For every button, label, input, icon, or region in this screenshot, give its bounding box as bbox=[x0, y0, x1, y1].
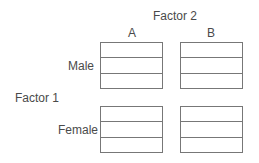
box-male-a bbox=[100, 42, 163, 89]
box-female-b bbox=[180, 106, 243, 153]
cell bbox=[101, 73, 162, 88]
cell bbox=[181, 73, 242, 88]
cell bbox=[181, 57, 242, 72]
column-label-a: A bbox=[128, 26, 136, 40]
cell bbox=[101, 57, 162, 72]
factor1-label: Factor 1 bbox=[15, 91, 59, 105]
cell bbox=[101, 121, 162, 136]
cell bbox=[181, 137, 242, 152]
box-male-b bbox=[180, 42, 243, 89]
cell bbox=[101, 43, 162, 57]
row-label-female: Female bbox=[58, 123, 98, 137]
box-female-a bbox=[100, 106, 163, 153]
cell bbox=[181, 107, 242, 121]
factor2-label: Factor 2 bbox=[153, 9, 197, 23]
cell bbox=[181, 43, 242, 57]
cell bbox=[101, 107, 162, 121]
column-label-b: B bbox=[207, 26, 215, 40]
cell bbox=[181, 121, 242, 136]
row-label-male: Male bbox=[68, 59, 94, 73]
cell bbox=[101, 137, 162, 152]
